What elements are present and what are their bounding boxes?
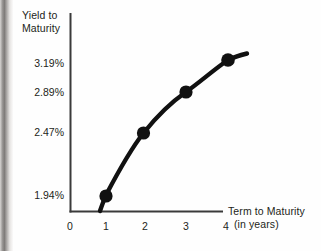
data-point-marker bbox=[221, 53, 235, 67]
yield-curve-line bbox=[100, 54, 247, 212]
data-point-marker bbox=[99, 189, 112, 202]
yield-curve-plot bbox=[0, 0, 321, 251]
data-point-marker bbox=[179, 85, 192, 98]
chart-screenshot: Yield to Maturity Term to Maturity (in y… bbox=[0, 0, 321, 251]
data-point-marker bbox=[137, 126, 150, 139]
